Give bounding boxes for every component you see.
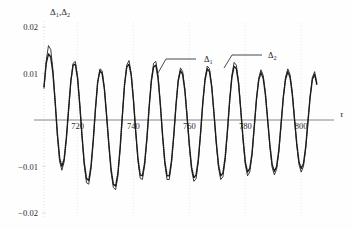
figure-container: 720740760780800 0.020.01−0.01−0.02 Δ1Δ2 … bbox=[0, 0, 352, 229]
annotation-leaders: Δ1Δ2 bbox=[158, 50, 277, 73]
y-tick-label: 0.01 bbox=[23, 69, 38, 79]
axis-labels: Δ1,Δ2τ bbox=[50, 7, 344, 119]
chart-canvas: 720740760780800 0.020.01−0.01−0.02 Δ1Δ2 … bbox=[0, 0, 352, 229]
delta-1-callout: Δ1 bbox=[158, 54, 213, 73]
y-tick-label: 0.02 bbox=[23, 22, 38, 32]
y-axis-label: Δ1,Δ2 bbox=[50, 7, 70, 18]
gridlines bbox=[44, 21, 301, 217]
y-tick-label: −0.02 bbox=[18, 208, 38, 218]
x-tick-label: 780 bbox=[239, 121, 252, 131]
delta-2-callout-label: Δ2 bbox=[268, 50, 277, 61]
delta-2-callout: Δ2 bbox=[224, 50, 277, 68]
x-tick-label: 800 bbox=[295, 121, 308, 131]
y-tick-label: −0.01 bbox=[18, 162, 38, 172]
delta-1-callout-label: Δ1 bbox=[204, 54, 213, 65]
x-tick-label: 760 bbox=[183, 121, 196, 131]
x-axis-label: τ bbox=[340, 109, 344, 119]
x-tick-label: 740 bbox=[127, 121, 140, 131]
